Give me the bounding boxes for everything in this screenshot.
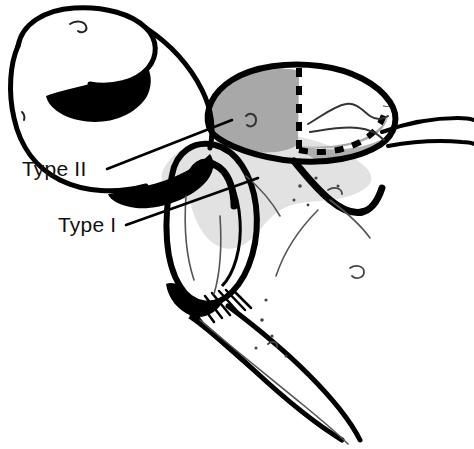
label-type-ii: Type II bbox=[22, 157, 86, 180]
anatomy-illustration: Type II Type I bbox=[0, 0, 474, 449]
anatomical-figure: Type II Type I bbox=[0, 0, 474, 449]
label-type-i: Type I bbox=[58, 213, 116, 236]
